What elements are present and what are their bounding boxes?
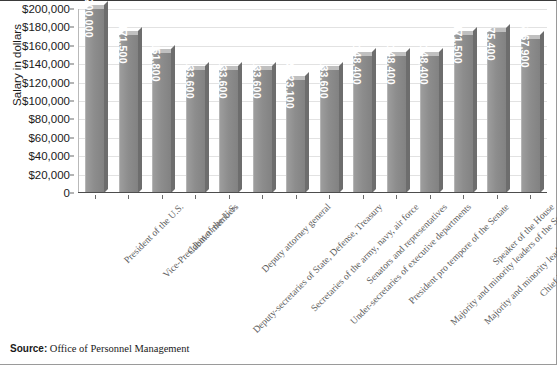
bar-value-label: $123,100 — [284, 63, 296, 108]
bar[interactable]: $171,500 — [119, 35, 138, 193]
y-axis-tick-mark — [70, 9, 74, 10]
y-axis-tick-label: $200,000 — [22, 3, 70, 15]
y-axis-tick-label: $60,000 — [28, 132, 70, 144]
y-axis-tick-label: $20,000 — [28, 169, 70, 181]
plot-area: $200,000$171,500$151,800$133,600$133,600… — [78, 9, 547, 193]
bar-slot: $200,000 — [85, 9, 104, 193]
x-axis-tick-mark — [329, 195, 330, 199]
bar-value-label: $148,400 — [418, 40, 430, 85]
bar-value-label: $148,400 — [351, 40, 363, 85]
x-axis-tick-mark — [229, 195, 230, 199]
bar-series: $200,000$171,500$151,800$133,600$133,600… — [78, 9, 547, 193]
y-axis-tick-label: $180,000 — [22, 21, 70, 33]
bar-slot: $123,100 — [286, 9, 305, 193]
bar[interactable]: $171,500 — [454, 35, 473, 193]
y-axis-tick-mark — [70, 119, 74, 120]
y-axis-tick-mark — [70, 101, 74, 102]
x-axis-tick-mark — [497, 195, 498, 199]
y-axis-tick-label: $160,000 — [22, 40, 70, 52]
x-axis-category-labels: President of the U.S.Vice-President of t… — [78, 195, 547, 335]
bar-value-label: $148,400 — [385, 40, 397, 85]
y-axis-tick-label: $40,000 — [28, 150, 70, 162]
bar[interactable]: $148,400 — [387, 56, 406, 193]
bar-value-label: $167,900 — [519, 22, 531, 67]
bar-slot: $148,400 — [353, 9, 372, 193]
bar-value-label: $133,600 — [318, 53, 330, 98]
x-axis-line — [78, 192, 547, 193]
y-axis-tick-label: $80,000 — [28, 113, 70, 125]
y-axis-tick-mark — [70, 156, 74, 157]
source-label: Source: — [10, 343, 47, 354]
y-axis-tick-label: $120,000 — [22, 77, 70, 89]
x-axis-tick-mark — [95, 195, 96, 199]
source-text: Office of Personnel Management — [50, 343, 189, 354]
bar[interactable]: $133,600 — [186, 70, 205, 193]
x-axis-tick-mark — [262, 195, 263, 199]
bar-value-label: $133,600 — [217, 53, 229, 98]
y-axis-tick-mark — [70, 137, 74, 138]
x-axis-tick-mark — [296, 195, 297, 199]
bar[interactable]: $148,400 — [353, 56, 372, 193]
y-axis-tick-mark — [70, 193, 74, 194]
bar[interactable]: $123,100 — [286, 80, 305, 193]
x-axis-category-label: Cabinet members — [184, 201, 239, 256]
bar[interactable]: $133,600 — [320, 70, 339, 193]
bar-value-label: $133,600 — [251, 53, 263, 98]
x-axis-tick-mark — [128, 195, 129, 199]
bar[interactable]: $148,400 — [420, 56, 439, 193]
y-axis-tick-mark — [70, 82, 74, 83]
x-axis-tick-mark — [195, 195, 196, 199]
bar-slot: $175,400 — [487, 9, 506, 193]
x-axis-tick-mark — [363, 195, 364, 199]
bar-slot: $151,800 — [152, 9, 171, 193]
source-note: Source: Office of Personnel Management — [10, 343, 189, 354]
bar-slot: $167,900 — [521, 9, 540, 193]
x-axis-tick-mark — [162, 195, 163, 199]
bar-value-label: $133,600 — [184, 53, 196, 98]
bar[interactable]: $175,400 — [487, 32, 506, 193]
bar[interactable]: $167,900 — [521, 39, 540, 193]
x-axis-tick-mark — [430, 195, 431, 199]
y-axis-tick-mark — [70, 45, 74, 46]
bar-value-label: $171,500 — [452, 19, 464, 64]
bar-slot: $133,600 — [253, 9, 272, 193]
y-axis-tick-label: $100,000 — [22, 95, 70, 107]
bar[interactable]: $133,600 — [219, 70, 238, 193]
chart-figure: Salary in dollars 0$20,000$40,000$60,000… — [0, 0, 557, 365]
bar-slot: $133,600 — [186, 9, 205, 193]
bar-value-label: $151,800 — [150, 37, 162, 82]
bar-value-label: $200,000 — [83, 0, 95, 38]
x-axis-tick-mark — [396, 195, 397, 199]
bar-slot: $148,400 — [420, 9, 439, 193]
bar-slot: $171,500 — [454, 9, 473, 193]
bar-slot: $148,400 — [387, 9, 406, 193]
bar[interactable]: $133,600 — [253, 70, 272, 193]
bar-value-label: $175,400 — [485, 15, 497, 60]
y-axis-tick-mark — [70, 174, 74, 175]
bar-slot: $133,600 — [320, 9, 339, 193]
y-axis-tick-labels: 0$20,000$40,000$60,000$80,000$100,000$12… — [0, 9, 74, 193]
y-axis-tick-mark — [70, 27, 74, 28]
y-axis-tick-label: $140,000 — [22, 58, 70, 70]
bar-slot: $133,600 — [219, 9, 238, 193]
bar[interactable]: $151,800 — [152, 53, 171, 193]
bar[interactable]: $200,000 — [85, 9, 104, 193]
bar-slot: $171,500 — [119, 9, 138, 193]
x-axis-tick-mark — [530, 195, 531, 199]
x-axis-tick-mark — [463, 195, 464, 199]
y-axis-tick-mark — [70, 64, 74, 65]
bar-value-label: $171,500 — [117, 19, 129, 64]
